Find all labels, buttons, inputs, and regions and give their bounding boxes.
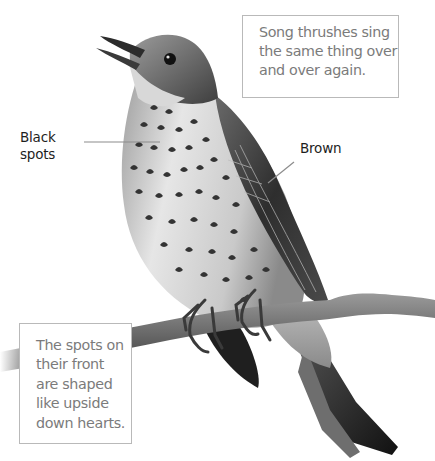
note-spots-line-3: are shaped — [36, 375, 127, 394]
note-box-song: Song thrushes sing the same thing over a… — [242, 15, 399, 98]
label-black-spots-line-2: spots — [20, 146, 56, 163]
label-black-spots: Black spots — [20, 129, 56, 163]
note-spots-line-1: The spots on — [36, 336, 127, 355]
note-box-spots: The spots on their front are shaped like… — [19, 323, 132, 444]
note-spots-line-2: their front — [36, 355, 127, 374]
label-brown: Brown — [300, 140, 341, 157]
beak — [96, 36, 145, 70]
thrush-illustration-page: Black spots Brown Song thrushes sing the… — [0, 0, 435, 461]
note-spots-line-4: like upside — [36, 394, 127, 413]
note-song-line-2: the same thing over — [259, 42, 390, 61]
note-spots-line-5: down hearts. — [36, 414, 127, 433]
eye — [164, 53, 176, 65]
label-brown-text: Brown — [300, 140, 341, 157]
label-black-spots-line-1: Black — [20, 129, 56, 146]
note-song-line-1: Song thrushes sing — [259, 23, 390, 42]
note-song-line-3: and over again. — [259, 61, 390, 80]
